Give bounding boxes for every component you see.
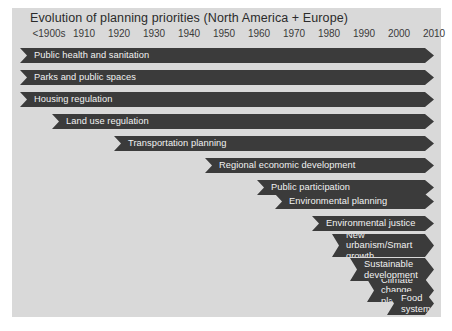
bar-label: Environmental justice [312,218,427,229]
bar-new-urbanism-smart-growth: New urbanism/Smart growth [332,234,434,257]
bar-label: Land use regulation [52,116,161,127]
bar-food-systems: Food systems [387,292,434,315]
bar-label: Transportation planning [114,138,239,149]
bar-land-use-regulation: Land use regulation [52,114,434,129]
bar-transportation-planning: Transportation planning [114,136,434,151]
bar-label: Housing regulation [20,94,124,105]
bar-label: Public health and sanitation [20,50,161,61]
bar-parks-and-public-spaces: Parks and public spaces [20,70,434,85]
bar-label: New urbanism/Smart growth [332,230,434,262]
bar-environmental-justice: Environmental justice [312,216,434,231]
bar-environmental-planning: Environmental planning [275,194,434,209]
bar-housing-regulation: Housing regulation [20,92,434,107]
bar-regional-economic-development: Regional economic development [205,158,434,173]
bar-label: Public participation [257,182,362,193]
bar-label: Parks and public spaces [20,72,148,83]
bar-sustainable-development: Sustainable development [350,258,434,281]
bar-public-participation: Public participation [257,180,434,195]
bar-label: Environmental planning [275,196,399,207]
bar-label: Sustainable development [350,259,430,280]
timeline-figure: Evolution of planning priorities (North … [0,0,452,331]
bar-public-health-and-sanitation: Public health and sanitation [20,48,434,63]
bar-label: Food systems [387,293,447,314]
bar-label: Regional economic development [205,160,367,171]
bar-list: Public health and sanitationParks and pu… [0,0,452,331]
